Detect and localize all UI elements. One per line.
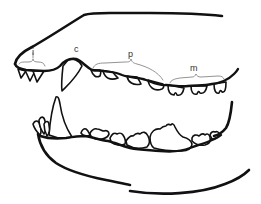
lower-premolar-4: [126, 132, 149, 148]
lower-molars: [150, 124, 219, 151]
label-molars: m: [190, 63, 198, 73]
label-premolars: p: [128, 49, 133, 59]
jaw-diagram: i c p m: [0, 0, 261, 204]
upper-premolars: [91, 70, 164, 90]
lower-canine: [49, 97, 72, 138]
upper-molar-2: [191, 86, 207, 94]
label-canine: c: [74, 44, 79, 54]
labels: i c p m: [19, 44, 224, 83]
label-incisors: i: [32, 47, 34, 57]
upper-gumline: [15, 59, 238, 86]
upper-incisor-3: [33, 71, 44, 82]
lower-carnassial: [150, 124, 192, 151]
incisors-brace: [19, 59, 45, 66]
upper-skull-outline: [15, 13, 222, 64]
molars-brace: [170, 74, 224, 83]
lower-jaw-bottom: [130, 170, 249, 194]
upper-canine: [62, 59, 82, 91]
lower-incisors: [33, 117, 49, 136]
upper-jaw: [15, 13, 238, 95]
lower-jaw: [33, 97, 249, 194]
